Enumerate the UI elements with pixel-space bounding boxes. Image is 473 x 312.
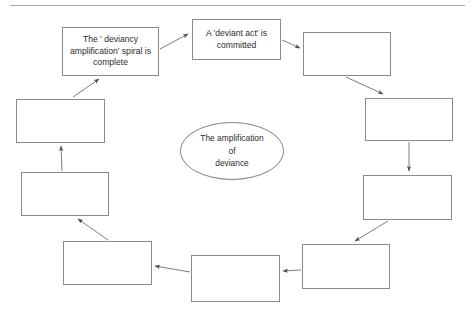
cycle-box-labelled-node-1[interactable]: A 'deviant act' is committed xyxy=(192,19,281,60)
cycle-box-blank-node-8[interactable] xyxy=(21,172,109,216)
center-oval: The amplification of deviance xyxy=(180,122,284,180)
arrow-4-to-5 xyxy=(355,221,388,241)
arrow-2-to-3 xyxy=(346,77,383,94)
cycle-box-blank-node-4[interactable] xyxy=(363,175,452,220)
center-oval-line-1: The amplification xyxy=(200,132,263,145)
worksheet-page: A 'deviant act' is committedThe ' devian… xyxy=(0,0,473,312)
center-oval-line-3: deviance xyxy=(200,157,263,170)
node-1-label: A 'deviant act' is committed xyxy=(196,28,277,51)
cycle-box-blank-node-5[interactable] xyxy=(302,244,390,289)
cycle-box-blank-node-3[interactable] xyxy=(365,98,453,141)
cycle-box-blank-node-9[interactable] xyxy=(16,99,105,143)
arrow-10-to-1 xyxy=(160,34,188,49)
node-10-label: The ' deviancy amplification' spiral is … xyxy=(66,34,155,69)
cycle-box-blank-node-7[interactable] xyxy=(63,241,152,285)
arrow-5-to-6 xyxy=(283,270,301,271)
center-oval-line-2: of xyxy=(200,145,263,158)
cycle-box-blank-node-6[interactable] xyxy=(191,255,280,302)
cycle-box-blank-node-2[interactable] xyxy=(303,32,391,76)
page-top-rule xyxy=(10,5,465,6)
cycle-box-labelled-node-10[interactable]: The ' deviancy amplification' spiral is … xyxy=(62,27,159,76)
arrow-8-to-9 xyxy=(61,146,62,171)
arrow-1-to-2 xyxy=(282,40,300,48)
center-oval-label: The amplification of deviance xyxy=(200,132,263,170)
arrow-9-to-10 xyxy=(73,79,99,97)
arrow-7-to-8 xyxy=(78,219,108,240)
arrow-6-to-7 xyxy=(155,266,190,272)
